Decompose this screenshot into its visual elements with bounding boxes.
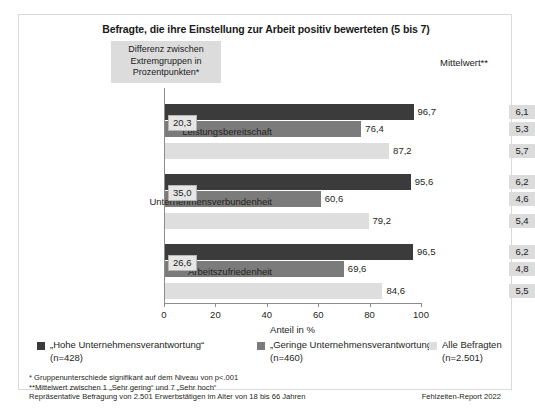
bar-value-label: 96,5	[417, 244, 436, 260]
mean-value-box: 6,2	[509, 175, 535, 189]
mean-header-label: Mittelwert**	[419, 57, 509, 68]
mean-value-box: 4,6	[509, 192, 535, 206]
legend-series-name: „Geringe Unternehmensverantwortung“	[270, 339, 435, 352]
bar-value-label: 79,2	[373, 213, 392, 229]
legend-series-n: (n=460)	[270, 352, 435, 365]
mean-value-box: 6,1	[509, 105, 535, 119]
x-axis-label: Anteil in %	[164, 324, 421, 335]
legend-series-n: (n=428)	[50, 352, 204, 365]
category-label: Arbeitszufriedenheit	[188, 266, 272, 277]
mean-value-box: 5,3	[509, 122, 535, 136]
x-axis-tick	[267, 303, 268, 307]
bar	[165, 283, 382, 299]
legend-label: „Hohe Unternehmensverantwortung“(n=428)	[50, 339, 204, 364]
bar-value-label: 95,6	[415, 174, 434, 190]
mean-value-box: 5,4	[509, 214, 535, 228]
x-axis-tick-label: 40	[262, 309, 273, 320]
bar	[165, 244, 413, 260]
x-axis-tick	[318, 303, 319, 307]
x-axis-tick-label: 80	[364, 309, 375, 320]
bar	[165, 174, 411, 190]
difference-value-box: 35,0	[168, 185, 197, 201]
difference-value-box: 26,6	[168, 255, 197, 271]
legend-label: „Geringe Unternehmensverantwortung“(n=46…	[270, 339, 435, 364]
legend-series-name: Alle Befragten	[442, 339, 502, 352]
x-axis-tick	[421, 303, 422, 307]
difference-header-box: Differenz zwischen Extremgruppen in Proz…	[111, 41, 221, 83]
bar-value-label: 69,6	[348, 261, 367, 277]
x-axis-tick-label: 100	[413, 309, 429, 320]
bar	[165, 213, 369, 229]
mean-value-box: 4,8	[509, 262, 535, 276]
chart-figure: Befragte, die ihre Einstellung zur Arbei…	[18, 14, 512, 390]
mean-value-box: 6,2	[509, 245, 535, 259]
legend-series-n: (n=2.501)	[442, 352, 502, 365]
mean-value-box: 5,7	[509, 144, 535, 158]
bar-value-label: 87,2	[393, 143, 412, 159]
difference-value-box: 20,3	[168, 115, 197, 131]
footnote-line-2: **Mittelwert zwischen 1 „Sehr gering“ un…	[29, 383, 509, 393]
footnote-line-1: * Gruppenunterschiede signifikant auf de…	[29, 373, 509, 383]
plot-area: 020406080100Anteil in %96,76,176,45,387,…	[164, 88, 421, 303]
legend-series-name: „Hohe Unternehmensverantwortung“	[50, 339, 204, 352]
x-axis-tick	[164, 303, 165, 307]
source-label: Fehlzeiten-Report 2022	[422, 392, 501, 401]
legend-label: Alle Befragten(n=2.501)	[442, 339, 502, 364]
bar	[165, 143, 389, 159]
legend-swatch-icon	[257, 342, 265, 350]
bar-value-label: 96,7	[418, 104, 437, 120]
mean-value-box: 5,5	[509, 284, 535, 298]
page-title: Befragte, die ihre Einstellung zur Arbei…	[19, 23, 513, 35]
x-axis-tick	[370, 303, 371, 307]
legend-swatch-icon	[37, 342, 45, 350]
x-axis-line	[164, 303, 422, 304]
x-axis-tick-label: 0	[161, 309, 166, 320]
x-axis-tick-label: 60	[313, 309, 324, 320]
bar-value-label: 60,6	[325, 191, 344, 207]
bar-value-label: 76,4	[365, 121, 384, 137]
bar-value-label: 84,6	[386, 283, 405, 299]
x-axis-tick-label: 20	[210, 309, 221, 320]
legend-swatch-icon	[429, 342, 437, 350]
x-axis-tick	[215, 303, 216, 307]
legend: „Hohe Unternehmensverantwortung“(n=428)„…	[29, 339, 509, 369]
bar	[165, 104, 414, 120]
